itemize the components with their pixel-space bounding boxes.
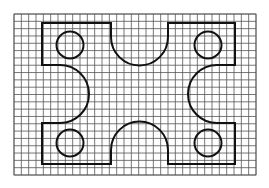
bottom-left-hole (57, 130, 84, 157)
top-right-hole (195, 32, 222, 59)
top-left-hole (57, 32, 84, 59)
bottom-right-hole (195, 130, 222, 157)
diagram-canvas (0, 0, 269, 188)
